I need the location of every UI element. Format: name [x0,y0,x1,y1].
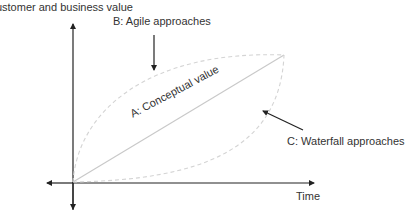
x-axis-label: Time [296,190,320,202]
agile-approaches-label: B: Agile approaches [113,15,211,27]
waterfall-pointer-arrow [263,111,303,130]
conceptual-value-line [73,55,284,182]
y-axis-label: Customer and business value [0,1,86,14]
waterfall-approaches-label: C: Waterfall approaches [287,135,405,147]
